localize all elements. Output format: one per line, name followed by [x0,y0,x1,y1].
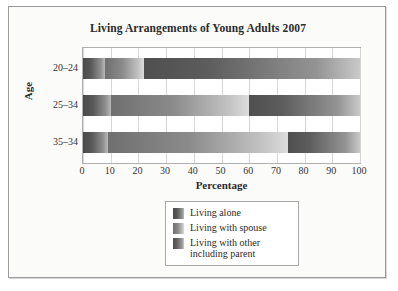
x-axis-title: Percentage [82,179,361,191]
bar-row [83,95,360,116]
bar-segment [108,132,288,153]
y-axis-tick-label: 25–34 [53,99,78,110]
bar-segment [83,58,105,79]
bar-segment [83,95,111,116]
legend-swatch-alone [173,208,184,219]
bar-segment [249,95,360,116]
x-axis-tick-label: 30 [160,165,170,176]
bar-segment [144,58,360,79]
legend-item: Living with otherincluding parent [173,237,291,259]
legend-item: Living alone [173,207,291,219]
x-axis-tick-label: 40 [188,165,198,176]
x-axis-tick-label: 0 [80,165,85,176]
x-axis-tick-labels: 0102030405060708090100 [82,165,361,179]
bar-segment [288,132,360,153]
x-axis-tick-label: 100 [352,165,367,176]
legend-item: Living with spouse [173,222,291,234]
x-axis-tick-label: 80 [299,165,309,176]
plot-area [82,47,361,164]
chart-figure-frame: Living Arrangements of Young Adults 2007… [8,6,386,278]
y-axis-tick-label: 20–24 [53,62,78,73]
bar-segment [111,95,250,116]
chart-title: Living Arrangements of Young Adults 2007 [9,22,387,34]
bar-row [83,132,360,153]
x-axis-tick-label: 70 [271,165,281,176]
bar-segment [105,58,144,79]
chart-legend: Living aloneLiving with spouseLiving wit… [165,201,299,266]
legend-swatch-other [173,238,184,249]
x-axis-tick-label: 20 [132,165,142,176]
x-axis-tick-label: 50 [216,165,226,176]
legend-item-label: Living alone [190,207,241,218]
gridline [360,48,361,163]
x-axis-tick-label: 60 [243,165,253,176]
y-axis-tick-label: 35–34 [53,136,78,147]
bar-row [83,58,360,79]
legend-item-label: Living with spouse [190,222,267,233]
x-axis-tick-label: 90 [326,165,336,176]
legend-item-label: Living with otherincluding parent [190,237,260,259]
y-axis-tick-labels: 20–2425–3435–34 [29,47,78,162]
legend-swatch-spouse [173,223,184,234]
bar-segment [83,132,108,153]
x-axis-tick-label: 10 [105,165,115,176]
